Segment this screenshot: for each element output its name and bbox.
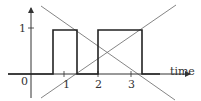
origin-label: 0: [21, 75, 28, 88]
x-axis-label: time: [170, 65, 195, 78]
x-tick-label-2: 2: [95, 78, 102, 91]
descending-diagonal-line: [41, 6, 175, 100]
y-tick-label: 1: [19, 22, 26, 35]
ascending-diagonal-line: [41, 5, 176, 98]
x-tick-label-3: 3: [128, 78, 135, 91]
x-tick-label-1: 1: [63, 78, 70, 91]
pulse-diagram: 1 0 1 2 3 time: [0, 0, 201, 101]
